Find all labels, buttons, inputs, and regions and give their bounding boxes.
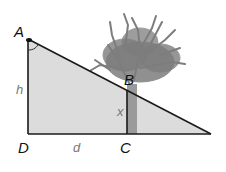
tree-canopy <box>88 14 185 85</box>
point-label-C: C <box>120 140 131 155</box>
diagram-canvas <box>0 0 226 172</box>
variable-x: x <box>117 105 124 118</box>
variable-h: h <box>16 83 23 96</box>
point-label-A: A <box>14 24 24 39</box>
observer-eye-dot <box>26 38 32 42</box>
variable-d: d <box>73 141 80 154</box>
point-label-D: D <box>18 140 29 155</box>
point-label-B: B <box>124 72 134 87</box>
diagram: A B C D h x d <box>0 0 226 172</box>
